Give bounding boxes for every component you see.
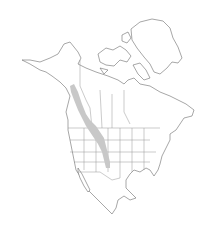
north-america-map [0, 0, 213, 227]
